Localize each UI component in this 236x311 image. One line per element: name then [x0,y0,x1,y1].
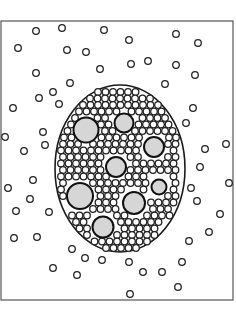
small-particle [135,167,142,174]
small-particle [88,160,95,167]
small-particle [109,95,116,102]
small-particle [56,101,63,108]
small-particle [128,134,135,141]
small-particle [76,108,83,115]
small-particle [139,128,146,135]
small-particle [105,141,112,148]
small-particle [83,108,90,115]
small-particle [136,108,143,115]
small-particle [76,225,83,232]
small-particle [110,186,117,193]
small-particle [121,212,128,219]
small-particle [13,208,20,215]
small-particle [133,160,140,167]
small-particle [118,147,125,154]
small-particle [170,186,177,193]
small-particle [133,219,140,226]
small-particle [95,147,102,154]
small-particle [40,129,47,136]
small-particle [143,121,150,128]
small-particle [5,185,12,192]
small-particle [140,102,147,109]
small-particle [121,134,128,141]
small-particle [80,147,87,154]
large-particle [152,180,167,195]
small-particle [15,45,22,52]
small-particle [114,238,121,245]
small-particle [147,128,154,135]
small-particle [95,186,102,193]
small-particle [91,108,98,115]
small-particle [112,206,119,213]
small-particle [143,108,150,115]
small-particle [127,154,134,161]
small-particle [162,115,169,122]
small-particle [172,167,179,174]
small-particle [194,198,201,205]
small-particle [103,199,110,206]
small-particle [183,120,190,127]
small-particle [142,180,149,187]
small-particle [148,199,155,206]
small-particle [165,167,172,174]
small-particle [46,209,53,216]
small-particle [140,160,147,167]
small-particle [60,141,67,148]
small-particle [133,173,140,180]
small-particle [106,108,113,115]
small-particle [67,154,74,161]
small-particle [144,238,151,245]
small-particle [80,219,87,226]
small-particle [98,134,105,141]
small-particle [97,66,104,73]
large-particle [67,183,93,209]
small-particle [106,134,113,141]
large-particle [144,137,164,157]
small-particle [84,232,91,239]
small-particle [127,180,134,187]
small-particle [128,108,135,115]
small-particle [133,245,140,252]
small-particle [166,134,173,141]
small-particle [125,173,132,180]
small-particle [33,28,40,35]
small-particle [125,245,132,252]
particle-cluster-diagram [0,0,236,311]
small-particle [73,160,80,167]
small-particle [163,160,170,167]
small-particle [188,185,195,192]
small-particle [140,219,147,226]
small-particle [142,167,149,174]
small-particle [165,141,172,148]
small-particle [95,89,102,96]
small-particle [162,128,169,135]
small-particle [112,141,119,148]
small-particle [136,238,143,245]
small-particle [169,128,176,135]
small-particle [103,186,110,193]
small-particle [58,160,65,167]
small-particle [144,225,151,232]
small-particle [105,206,112,213]
small-particle [99,238,106,245]
small-particle [132,102,139,109]
small-particle [98,108,105,115]
small-particle [126,259,133,266]
small-particle [151,232,158,239]
small-particle [147,95,154,102]
small-particle [170,173,177,180]
small-particle [127,141,134,148]
small-particle [136,134,143,141]
small-particle [102,89,109,96]
small-particle [172,180,179,187]
small-particle [139,115,146,122]
small-particle [118,219,125,226]
small-particle [154,115,161,122]
small-particle [90,154,97,161]
small-particle [147,102,154,109]
small-particle [106,238,113,245]
small-particle [67,167,74,174]
small-particle [42,142,49,149]
small-particle [112,180,119,187]
small-particle [128,61,135,68]
